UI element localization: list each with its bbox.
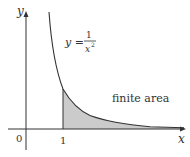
origin-label: 0 bbox=[16, 133, 22, 144]
equation-denominator: x bbox=[85, 44, 90, 54]
curve-equation: y = 1 x 2 bbox=[64, 30, 96, 54]
x-axis-label: x bbox=[178, 132, 185, 146]
equation-lhs: y = bbox=[64, 36, 84, 49]
equation-exponent: 2 bbox=[91, 41, 95, 48]
equation-numerator: 1 bbox=[86, 30, 92, 40]
figure-canvas: y x 0 1 y = 1 x 2 finite area bbox=[0, 0, 190, 157]
tick-label-one: 1 bbox=[60, 135, 66, 146]
y-axis-arrow-icon bbox=[24, 11, 29, 17]
finite-area-label: finite area bbox=[112, 92, 170, 105]
y-axis-label: y bbox=[16, 4, 24, 18]
